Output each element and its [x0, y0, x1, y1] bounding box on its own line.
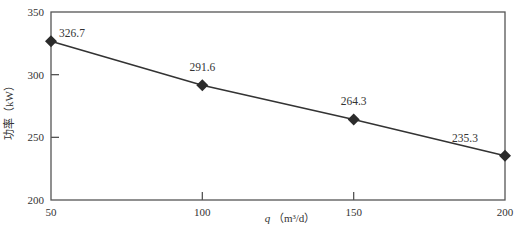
chart: 200250300350 50100150200 326.7291.6264.3…	[0, 0, 522, 230]
y-tick-label: 350	[28, 6, 45, 18]
plot-frame	[51, 12, 505, 200]
x-axis-variable: q	[265, 212, 271, 224]
x-tick-label: 200	[497, 206, 514, 218]
series-line-power	[51, 41, 505, 156]
data-labels: 326.7291.6264.3235.3	[59, 27, 478, 144]
data-label: 235.3	[452, 132, 478, 144]
y-tick-label: 250	[28, 131, 45, 143]
data-label: 326.7	[59, 27, 85, 39]
series-markers	[45, 35, 511, 162]
x-axis-title: q （m³/d）	[265, 212, 316, 224]
data-point-marker	[196, 79, 208, 91]
y-tick-label: 200	[28, 194, 45, 206]
data-point-marker	[45, 35, 57, 47]
x-tick-label: 150	[345, 206, 362, 218]
y-axis: 200250300350	[28, 6, 60, 206]
data-point-marker	[348, 113, 360, 125]
x-axis-unit: （m³/d）	[273, 212, 315, 224]
x-tick-label: 100	[194, 206, 211, 218]
y-tick-label: 300	[28, 69, 45, 81]
data-label: 291.6	[189, 61, 215, 73]
x-tick-label: 50	[46, 206, 58, 218]
y-axis-title: 功率（kW）	[2, 80, 15, 140]
data-point-marker	[499, 150, 511, 162]
data-label: 264.3	[341, 95, 367, 107]
